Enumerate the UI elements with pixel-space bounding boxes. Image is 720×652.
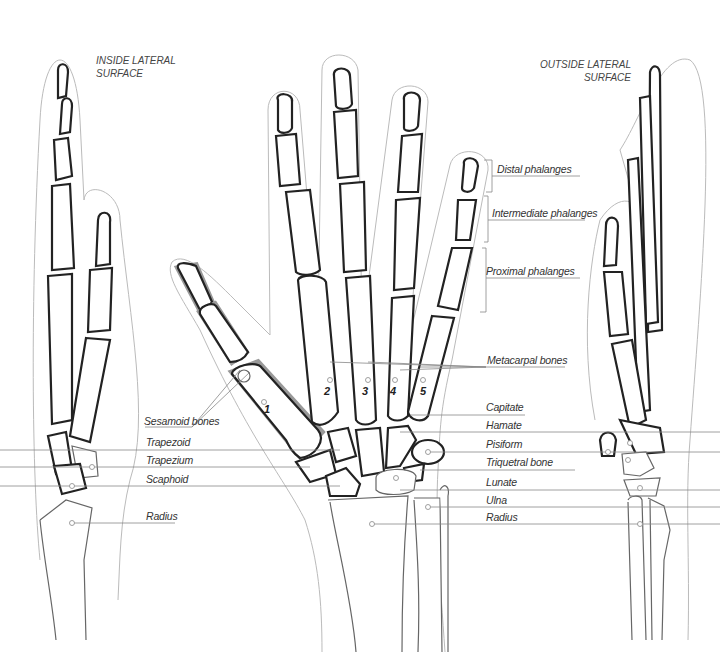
right-thumb-distal bbox=[604, 218, 618, 266]
outside-lateral-title-line1: OUTSIDE LATERAL bbox=[540, 58, 631, 71]
right-carpal-hamate bbox=[620, 420, 664, 454]
right-hand-lateral bbox=[587, 59, 705, 640]
index-intermediate bbox=[276, 134, 300, 186]
center-hand bbox=[170, 55, 488, 652]
index-distal bbox=[277, 94, 292, 133]
metacarpal-number-3: 3 bbox=[362, 385, 368, 397]
label-triquetral-bone: Triquetral bone bbox=[486, 456, 553, 468]
label-lunate: Lunate bbox=[486, 476, 517, 488]
forearm-bones bbox=[328, 486, 448, 652]
label-trapezium: Trapezium bbox=[146, 454, 193, 466]
middle-distal bbox=[334, 69, 352, 109]
left-radius bbox=[40, 500, 92, 640]
label-intermediate-phalanges: Intermediate phalanges bbox=[492, 207, 597, 219]
middle-intermediate bbox=[334, 110, 358, 178]
metacarpal-2 bbox=[298, 276, 338, 425]
inside-lateral-title-line1: INSIDE LATERAL bbox=[96, 54, 176, 67]
ring-intermediate bbox=[398, 134, 422, 192]
ring-distal bbox=[404, 93, 420, 131]
index-finger bbox=[276, 94, 338, 425]
lunate bbox=[376, 469, 416, 494]
label-radius-left: Radius bbox=[146, 510, 177, 522]
label-radius-right: Radius bbox=[486, 511, 517, 523]
outside-lateral-title-line2: SURFACE bbox=[540, 71, 631, 84]
label-distal-phalanges: Distal phalanges bbox=[497, 163, 571, 175]
right-triquetral bbox=[622, 452, 654, 476]
right-ulna bbox=[628, 496, 646, 640]
index-proximal bbox=[286, 190, 320, 275]
radius-bone bbox=[328, 496, 408, 652]
inside-lateral-title-line2: SURFACE bbox=[96, 67, 176, 80]
left-intermediate bbox=[54, 138, 72, 180]
label-pisiform: Pisiform bbox=[486, 438, 522, 450]
hand-anatomy-diagram bbox=[0, 0, 720, 652]
little-distal bbox=[462, 158, 478, 192]
left-distal-1 bbox=[58, 64, 68, 98]
metacarpal-number-4: 4 bbox=[390, 385, 396, 397]
label-metacarpal-bones: Metacarpal bones bbox=[487, 354, 567, 366]
left-metacarpal bbox=[48, 274, 72, 424]
little-intermediate bbox=[456, 200, 476, 240]
label-trapezoid: Trapezoid bbox=[146, 436, 190, 448]
left-thumb-distal bbox=[96, 213, 110, 266]
metacarpal-number-5: 5 bbox=[420, 385, 426, 397]
metacarpal-number-1: 1 bbox=[264, 403, 270, 415]
middle-finger bbox=[334, 69, 376, 425]
label-capitate: Capitate bbox=[486, 401, 524, 413]
label-sesamoid-bones: Sesamoid bones bbox=[144, 415, 219, 427]
left-thumb-metacarpal bbox=[70, 338, 110, 442]
left-proximal bbox=[52, 184, 74, 270]
ring-finger bbox=[388, 93, 422, 421]
inside-lateral-title: INSIDE LATERAL SURFACE bbox=[96, 54, 176, 80]
left-scaphoid bbox=[54, 464, 86, 494]
outside-lateral-title: OUTSIDE LATERAL SURFACE bbox=[540, 58, 631, 84]
ulna-bone bbox=[414, 498, 442, 652]
right-thumb-proximal bbox=[604, 272, 628, 336]
left-distal-2 bbox=[60, 98, 72, 134]
ring-proximal bbox=[394, 198, 420, 290]
middle-proximal bbox=[340, 182, 366, 272]
right-radius bbox=[648, 498, 670, 640]
metacarpal-number-2: 2 bbox=[324, 385, 330, 397]
label-scaphoid: Scaphoid bbox=[146, 473, 188, 485]
label-hamate: Hamate bbox=[486, 419, 522, 431]
left-thumb-proximal bbox=[88, 268, 112, 332]
metacarpal-3 bbox=[346, 276, 376, 425]
label-proximal-phalanges: Proximal phalanges bbox=[486, 265, 575, 277]
left-hand-lateral bbox=[33, 60, 138, 640]
sesamoid-bone bbox=[238, 370, 250, 382]
label-ulna: Ulna bbox=[486, 494, 507, 506]
capitate bbox=[356, 428, 384, 476]
